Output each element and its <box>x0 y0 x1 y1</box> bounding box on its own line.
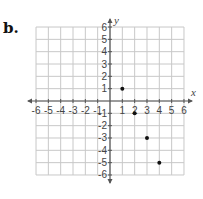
y-tick-label: 5 <box>101 34 107 45</box>
axes <box>27 18 193 184</box>
y-tick-label: -1 <box>98 108 107 119</box>
y-axis-label: y <box>113 14 119 26</box>
x-tick-label: -2 <box>81 105 90 116</box>
y-axis-up-arrow-icon <box>108 18 113 23</box>
x-tick-label: 5 <box>169 105 175 116</box>
data-point <box>133 111 137 115</box>
x-tick-label: 3 <box>144 105 150 116</box>
data-point <box>157 161 161 165</box>
y-tick-label: -6 <box>98 169 107 180</box>
y-tick-label: -4 <box>98 145 107 156</box>
x-axis-right-arrow-icon <box>188 99 193 104</box>
data-point <box>120 87 124 91</box>
data-point <box>145 136 149 140</box>
y-tick-label: -5 <box>98 157 107 168</box>
x-tick-label: 6 <box>181 105 187 116</box>
y-tick-label: -3 <box>98 132 107 143</box>
y-tick-label: 4 <box>101 46 107 57</box>
y-tick-label: 2 <box>101 71 107 82</box>
x-axis-label: x <box>190 86 196 98</box>
coordinate-plane: -6-5-4-3-2-1123456654321-1-2-3-4-5-6xy <box>0 0 203 199</box>
x-tick-label: -4 <box>56 105 65 116</box>
x-tick-label: 1 <box>120 105 126 116</box>
y-tick-label: 6 <box>101 22 107 33</box>
x-tick-label: -6 <box>32 105 41 116</box>
y-tick-label: 1 <box>101 83 107 94</box>
y-tick-label: -2 <box>98 120 107 131</box>
x-tick-label: -3 <box>69 105 78 116</box>
x-tick-label: -5 <box>44 105 53 116</box>
x-tick-label: 4 <box>157 105 163 116</box>
x-axis-left-arrow-icon <box>27 99 32 104</box>
y-axis-down-arrow-icon <box>108 179 113 184</box>
y-tick-label: 3 <box>101 59 107 70</box>
